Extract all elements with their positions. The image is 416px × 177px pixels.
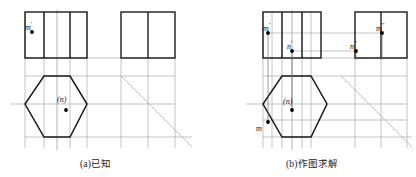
label-m-front-a: m′ (25, 21, 32, 32)
panel-b-group (246, 10, 412, 150)
label-n-front-b: n′ (287, 40, 292, 51)
label-n-side-b: n″ (350, 40, 357, 51)
caption-panel-b: (b)作图求解 (286, 156, 338, 170)
panel-a-front-view (25, 12, 87, 58)
panel-a-side-view (121, 12, 175, 58)
panel-b-point-drop-lines (268, 33, 382, 124)
panel-a-top-view-hexagon (25, 76, 87, 137)
panel-b-construction-lines (246, 12, 412, 148)
panel-b-point-n-top (290, 108, 294, 112)
panel-a-construction-lines (10, 12, 192, 148)
panel-b-point-m-top (266, 120, 270, 124)
label-m-top-b: m (256, 122, 262, 133)
panel-b-side-view (355, 12, 407, 58)
caption-panel-a: (a)已知 (80, 156, 112, 170)
panel-a-point-n-top (64, 108, 68, 112)
label-n-top-a: (n) (57, 96, 66, 104)
label-m-front-b: m′ (263, 22, 270, 33)
panel-b-top-view-hexagon (263, 76, 327, 137)
technical-drawing-figure: m′ (n) m′ n′ m″ n″ (n) m (a)已知 (b)作图求解 (0, 0, 416, 177)
label-m-side-b: m″ (376, 22, 384, 33)
panel-a-group (10, 10, 192, 150)
projection-drawing-svg (0, 0, 416, 177)
label-n-top-b: (n) (283, 98, 292, 106)
